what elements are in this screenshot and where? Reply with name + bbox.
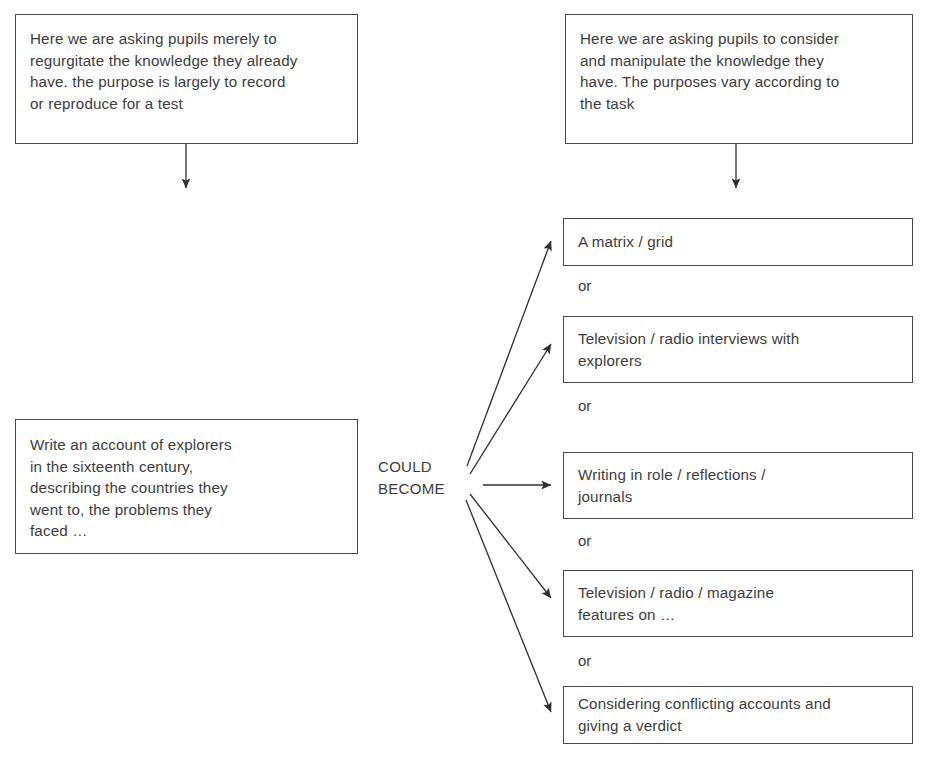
option-text-2: Writing in role / reflections / journals — [578, 464, 766, 507]
arrow-to-option-1 — [470, 344, 551, 474]
option-box-writing-in-role: Writing in role / reflections / journals — [563, 452, 913, 519]
option-box-conflicting-accounts: Considering conflicting accounts and giv… — [563, 686, 913, 744]
option-text-4: Considering conflicting accounts and giv… — [578, 693, 831, 736]
or-separator-2: or — [578, 533, 591, 548]
option-text-1: Television / radio interviews with explo… — [578, 328, 799, 371]
arrow-to-option-4 — [466, 500, 551, 712]
original-task-box: Write an account of explorers in the six… — [15, 419, 358, 554]
option-text-3: Television / radio / magazine features o… — [578, 582, 774, 625]
option-box-matrix-grid: A matrix / grid — [563, 218, 913, 266]
or-separator-0: or — [578, 278, 591, 293]
recall-annotation-box: Here we are asking pupils merely to regu… — [15, 14, 358, 144]
option-box-tv-radio-interviews: Television / radio interviews with explo… — [563, 316, 913, 383]
option-text-0: A matrix / grid — [578, 231, 673, 253]
option-box-tv-radio-magazine-features: Television / radio / magazine features o… — [563, 570, 913, 637]
could-become-label: COULD BECOME — [378, 456, 445, 500]
original-task-text: Write an account of explorers in the six… — [30, 434, 232, 542]
consider-annotation-box: Here we are asking pupils to consider an… — [565, 14, 913, 144]
arrow-to-option-0 — [467, 241, 551, 466]
recall-annotation-text: Here we are asking pupils merely to regu… — [30, 28, 298, 114]
consider-annotation-text: Here we are asking pupils to consider an… — [580, 28, 839, 114]
or-separator-3: or — [578, 653, 591, 668]
or-separator-1: or — [578, 398, 591, 413]
diagram-canvas: Here we are asking pupils merely to regu… — [0, 0, 925, 763]
arrow-to-option-3 — [470, 494, 551, 598]
